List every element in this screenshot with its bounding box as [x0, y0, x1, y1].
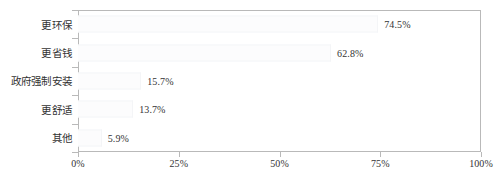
- bar-value-label: 74.5%: [384, 19, 410, 30]
- x-axis-tick-mark: [280, 152, 281, 157]
- y-axis-labels: 更环保 更省钱 政府强制安装 更舒适 其他: [0, 10, 72, 152]
- bar-value-label: 62.8%: [337, 47, 363, 58]
- bar-row: 62.8%: [78, 38, 481, 66]
- y-axis-tick-label: 更舒适: [0, 95, 72, 123]
- bar-value-label: 15.7%: [147, 75, 173, 86]
- y-axis-tick-label: 其他: [0, 124, 72, 152]
- bar-row: 74.5%: [78, 10, 481, 38]
- bar-row: 15.7%: [78, 67, 481, 95]
- bar-series: 74.5% 62.8% 15.7% 13.7% 5.9%: [78, 10, 481, 152]
- bar: [78, 44, 331, 61]
- x-axis-tick-mark: [179, 152, 180, 157]
- bar-value-label: 5.9%: [108, 132, 129, 143]
- bar: [78, 101, 133, 118]
- y-axis-tick-label: 更环保: [0, 10, 72, 38]
- x-axis-tick-label: 75%: [371, 158, 390, 169]
- x-axis-tick-mark: [78, 152, 79, 157]
- bar: [78, 16, 378, 33]
- bar: [78, 129, 102, 146]
- x-axis-tick-label: 50%: [270, 158, 289, 169]
- bar-row: 5.9%: [78, 124, 481, 152]
- x-axis-tick-label: 25%: [169, 158, 188, 169]
- x-axis-tick-label: 100%: [469, 158, 493, 169]
- bar-chart: 更环保 更省钱 政府强制安装 更舒适 其他 74.5% 62.8% 15.7% …: [0, 0, 499, 182]
- x-axis-tick-mark: [380, 152, 381, 157]
- x-axis-tick-label: 0%: [71, 158, 85, 169]
- x-axis-tick-mark: [481, 152, 482, 157]
- y-axis-tick-label: 更省钱: [0, 38, 72, 66]
- y-axis-tick-label: 政府强制安装: [0, 67, 72, 95]
- bar-value-label: 13.7%: [139, 104, 165, 115]
- bar-row: 13.7%: [78, 95, 481, 123]
- bar: [78, 72, 141, 89]
